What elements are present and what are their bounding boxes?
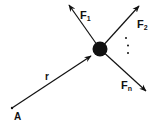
force-f2 [100, 6, 139, 49]
force-diagram: F1 F2 Fn r A [0, 0, 153, 121]
label-f2: F2 [137, 18, 148, 31]
label-origin-a: A [14, 111, 21, 121]
label-r: r [45, 71, 49, 82]
origin-point-dot [11, 107, 13, 109]
label-f1: F1 [80, 9, 91, 22]
r-arrow-line [12, 56, 91, 108]
position-vector-r [11, 56, 91, 109]
label-fn: Fn [121, 79, 132, 92]
particle [93, 42, 108, 57]
ellipsis-dots [125, 37, 129, 54]
f2-arrow-line [100, 6, 139, 49]
